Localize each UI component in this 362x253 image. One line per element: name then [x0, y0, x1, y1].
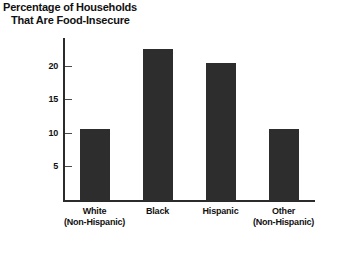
- y-tick-label-10-wrap: 10: [30, 128, 58, 138]
- x-axis-label-main-3: Other: [272, 206, 295, 216]
- bar-white-non-hispanic: [80, 129, 110, 201]
- y-tick-label-20-wrap: 20: [30, 61, 58, 71]
- x-axis-label-main-2: Hispanic: [203, 206, 239, 216]
- y-tick-label-5: 5: [32, 161, 58, 171]
- chart-title-line-1: Percentage of Households: [3, 1, 137, 13]
- y-tick-label-10: 10: [32, 128, 58, 138]
- y-tick-label-15: 15: [32, 94, 58, 104]
- plot-area: [63, 38, 315, 201]
- x-axis-label-other-non-hispanic: Other (Non-Hispanic): [245, 206, 323, 228]
- y-tick-label-5-wrap: 5: [30, 161, 58, 171]
- chart-title: Percentage of Households That Are Food-I…: [3, 1, 253, 26]
- y-tick-label-15-wrap: 15: [30, 94, 58, 104]
- y-tick-label-20: 20: [32, 61, 58, 71]
- x-axis-label-sub-3: (Non-Hispanic): [245, 217, 323, 228]
- chart-title-line-2: That Are Food-Insecure: [3, 14, 253, 27]
- x-axis-label-sub-0: (Non-Hispanic): [56, 217, 134, 228]
- bar-chart: Percentage of Households That Are Food-I…: [0, 0, 362, 253]
- bar-hispanic: [206, 63, 236, 201]
- bar-other-non-hispanic: [269, 129, 299, 201]
- bar-black: [143, 49, 173, 201]
- x-axis-label-main-0: White: [83, 206, 107, 216]
- x-axis-label-main-1: Black: [146, 206, 169, 216]
